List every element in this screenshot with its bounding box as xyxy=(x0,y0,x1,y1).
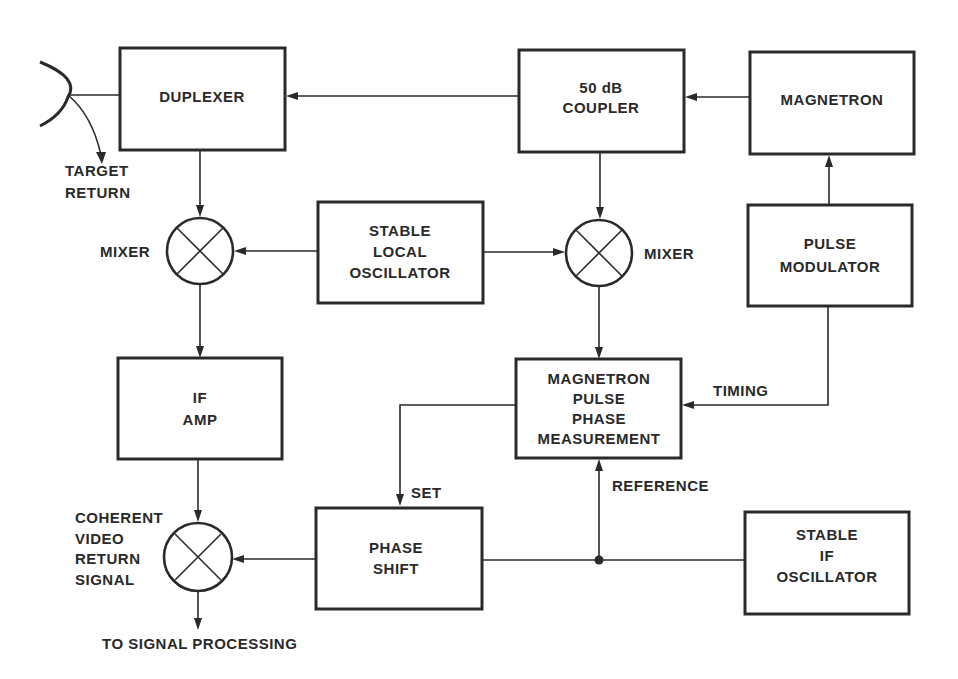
phase-meas-label-1: MAGNETRON xyxy=(548,370,651,387)
block-stable-if-oscillator[interactable]: STABLE IF OSCILLATOR xyxy=(745,512,909,614)
coupler-label-2: COUPLER xyxy=(563,99,640,116)
antenna-icon xyxy=(40,62,71,126)
arrow-into-output-mixer xyxy=(194,510,202,522)
label-to-signal-processing: TO SIGNAL PROCESSING xyxy=(102,635,297,652)
block-coupler[interactable]: 50 dB COUPLER xyxy=(519,50,684,152)
arrow-into-left-mixer xyxy=(196,205,204,217)
label-target-return-1: TARGET xyxy=(65,162,129,179)
pulse-modulator-label-1: PULSE xyxy=(804,235,857,252)
label-target-return-2: RETURN xyxy=(65,184,131,201)
block-pulse-modulator[interactable]: PULSE MODULATOR xyxy=(748,205,912,306)
block-duplexer[interactable]: DUPLEXER xyxy=(120,48,285,150)
duplexer-label: DUPLEXER xyxy=(159,88,245,105)
stalo-label-3: OSCILLATOR xyxy=(349,264,450,281)
block-magnetron[interactable]: MAGNETRON xyxy=(750,52,914,154)
arrow-into-right-mixer xyxy=(596,207,604,219)
arrow-into-coupler xyxy=(685,93,697,101)
stable-if-label-3: OSCILLATOR xyxy=(776,568,877,585)
mixer-left xyxy=(167,218,233,284)
arrow-stalo-left xyxy=(234,247,246,255)
if-amp-label-1: IF xyxy=(193,389,207,406)
label-timing: TIMING xyxy=(713,382,769,399)
mixer-right xyxy=(566,220,632,286)
arrow-set xyxy=(396,494,404,506)
radar-block-diagram: TARGET RETURN DUPLEXER 50 dB COUPLER MAG… xyxy=(0,0,958,679)
block-magnetron-pulse-phase-measurement[interactable]: MAGNETRON PULSE PHASE MEASUREMENT xyxy=(516,359,681,458)
arrow-to-signal-processing xyxy=(194,618,202,630)
coupler-label-1: 50 dB xyxy=(579,79,622,96)
phase-meas-label-4: MEASUREMENT xyxy=(537,430,660,447)
wire-target-return xyxy=(68,95,101,155)
arrow-into-duplexer xyxy=(286,92,298,100)
pulse-modulator-label-2: MODULATOR xyxy=(780,258,881,275)
arrow-stalo-right xyxy=(553,248,565,256)
label-coherent-1: COHERENT xyxy=(75,509,163,526)
block-stable-local-oscillator[interactable]: STABLE LOCAL OSCILLATOR xyxy=(318,202,483,303)
label-coherent-2: VIDEO xyxy=(75,530,124,547)
label-mixer-right: MIXER xyxy=(644,245,694,262)
stable-if-label-1: STABLE xyxy=(796,526,858,543)
magnetron-label: MAGNETRON xyxy=(781,91,884,108)
block-phase-shift[interactable]: PHASE SHIFT xyxy=(316,508,482,609)
arrow-into-phase-meas xyxy=(595,347,603,359)
stalo-label-1: STABLE xyxy=(369,222,431,239)
block-if-amp[interactable]: IF AMP xyxy=(118,358,282,459)
if-amp-label-2: AMP xyxy=(183,411,218,428)
label-reference: REFERENCE xyxy=(612,477,709,494)
arrow-phase-shift-output xyxy=(232,555,244,563)
phase-shift-label-2: SHIFT xyxy=(373,560,419,577)
stalo-label-2: LOCAL xyxy=(373,243,427,260)
arrow-reference xyxy=(595,459,603,471)
label-coherent-3: RETURN xyxy=(75,550,141,567)
label-set: SET xyxy=(411,484,442,501)
arrow-timing xyxy=(682,401,694,409)
stable-if-label-2: IF xyxy=(820,547,834,564)
label-mixer-left: MIXER xyxy=(100,243,150,260)
arrow-into-magnetron xyxy=(825,155,833,167)
phase-meas-label-3: PHASE xyxy=(572,410,626,427)
arrow-into-ifamp xyxy=(196,346,204,358)
phase-meas-label-2: PULSE xyxy=(573,390,626,407)
mixer-output xyxy=(164,523,232,591)
phase-shift-label-1: PHASE xyxy=(369,539,423,556)
label-coherent-4: SIGNAL xyxy=(75,571,135,588)
